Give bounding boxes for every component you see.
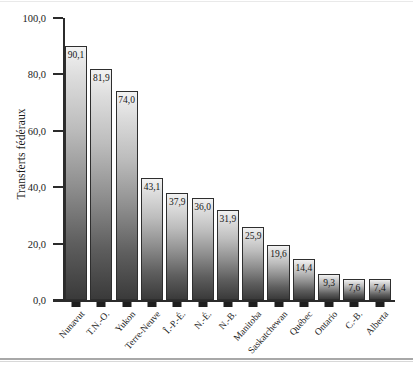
x-axis-tick-mark bbox=[173, 302, 182, 307]
x-axis-tick-mark bbox=[198, 302, 207, 307]
bar: 25,9 bbox=[242, 227, 264, 300]
bar: 74,0 bbox=[116, 91, 138, 300]
bar: 43,1 bbox=[141, 178, 163, 300]
x-axis-tick-mark bbox=[122, 302, 131, 307]
bar-value-label: 25,9 bbox=[243, 231, 263, 241]
bar-value-label: 19,6 bbox=[268, 249, 288, 259]
bar: 31,9 bbox=[217, 210, 239, 300]
bottom-divider bbox=[0, 358, 413, 360]
x-axis-category-text: Î.-P.-É. bbox=[162, 309, 187, 336]
x-axis-category-text: Nunavut bbox=[57, 309, 86, 340]
x-axis-tick-mark bbox=[97, 302, 106, 307]
x-axis-category-text: Ontario bbox=[313, 309, 340, 337]
bar-value-label: 43,1 bbox=[142, 182, 162, 192]
bar: 36,0 bbox=[192, 198, 214, 300]
x-axis-tick-mark bbox=[72, 302, 81, 307]
bar-value-label: 7,4 bbox=[370, 283, 390, 293]
bar-value-label: 74,0 bbox=[117, 95, 137, 105]
bar: 90,1 bbox=[65, 46, 87, 300]
bottom-divider-shadow bbox=[0, 361, 413, 362]
x-axis-category-text: N.-B. bbox=[217, 309, 239, 331]
bar-chart: Transferts fédéraux 0,020,040,060,080,01… bbox=[0, 0, 413, 367]
x-axis-category-text: T.N.-O. bbox=[85, 309, 112, 337]
bar-series: 90,181,974,043,137,936,031,925,919,614,4… bbox=[0, 0, 413, 300]
bar: 81,9 bbox=[90, 69, 112, 300]
x-axis-category-text: Yukon bbox=[113, 309, 137, 334]
x-axis-tick-mark bbox=[274, 302, 283, 307]
x-axis-category-text: Alberta bbox=[364, 309, 391, 337]
x-axis-category-text: N.-É. bbox=[192, 309, 213, 331]
bar-value-label: 37,9 bbox=[167, 197, 187, 207]
bar-value-label: 31,9 bbox=[218, 214, 238, 224]
bar-value-label: 81,9 bbox=[91, 73, 111, 83]
bar-value-label: 90,1 bbox=[66, 50, 86, 60]
bar-value-label: 14,4 bbox=[294, 263, 314, 273]
bar-value-label: 36,0 bbox=[193, 202, 213, 212]
x-axis-category-text: C.-B. bbox=[344, 309, 365, 331]
x-axis-tick-mark bbox=[375, 302, 384, 307]
